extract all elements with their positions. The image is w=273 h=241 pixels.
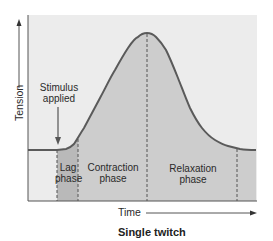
time-arrowhead-icon: [250, 211, 257, 216]
twitch-chart: [0, 0, 273, 241]
relaxation-line1: Relaxation: [162, 163, 224, 174]
lag-line1: Lag: [55, 162, 81, 173]
y-axis-label: Tension: [13, 85, 25, 121]
stimulus-line1: Stimulus: [33, 82, 85, 93]
lag-line2: phase: [55, 173, 81, 184]
contraction-line1: Contraction: [82, 162, 144, 173]
contraction-line2: phase: [82, 173, 144, 184]
stimulus-line2: applied: [33, 93, 85, 104]
stimulus-annotation: Stimulus applied: [33, 82, 85, 104]
lag-phase-label: Lag phase: [55, 162, 81, 184]
relaxation-phase-label: Relaxation phase: [162, 163, 224, 185]
tension-arrowhead-icon: [17, 19, 22, 26]
chart-title: Single twitch: [118, 226, 186, 238]
x-axis-label: Time: [118, 206, 141, 218]
relaxation-line2: phase: [162, 174, 224, 185]
contraction-phase-label: Contraction phase: [82, 162, 144, 184]
